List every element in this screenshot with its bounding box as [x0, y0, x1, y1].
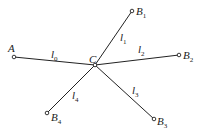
edge-label-l2-subscript: 2	[141, 50, 145, 58]
node-label-B2: B2	[183, 49, 194, 64]
node-label-C-text: C	[89, 53, 97, 65]
node-label-B4-subscript: 4	[58, 118, 62, 126]
node-A-point	[12, 55, 16, 59]
node-B3-point	[152, 117, 156, 121]
node-label-B3: B3	[157, 115, 168, 130]
edge-label-l0-subscript: 0	[54, 55, 58, 63]
edge-label-l1-subscript: 1	[123, 38, 127, 46]
edge-l4	[47, 65, 95, 113]
edge-l3	[95, 65, 154, 119]
node-label-B4: B4	[51, 111, 62, 126]
node-B4-point	[45, 111, 49, 115]
node-label-A: A	[7, 42, 15, 54]
edge-label-l2: l2	[138, 43, 145, 58]
edge-label-l4-subscript: 4	[75, 96, 79, 104]
node-label-B3-subscript: 3	[164, 122, 168, 130]
node-B2-point	[177, 53, 181, 57]
node-label-C: C	[89, 53, 97, 65]
node-B1-point	[130, 9, 134, 13]
nodes	[12, 9, 181, 121]
node-label-B1: B1	[136, 5, 147, 20]
node-label-A-text: A	[7, 42, 15, 54]
edge-label-l4: l4	[72, 89, 79, 104]
edge-l2	[95, 55, 179, 65]
edge-label-l1: l1	[120, 31, 127, 46]
star-graph-diagram: l0l1l2l3l4AB1B2B3B4C	[0, 0, 203, 136]
edge-label-l3-subscript: 3	[135, 91, 139, 99]
labels: l0l1l2l3l4AB1B2B3B4C	[7, 5, 194, 130]
edge-label-l3: l3	[132, 84, 139, 99]
node-label-B2-subscript: 2	[190, 56, 194, 64]
node-label-B1-subscript: 1	[143, 12, 147, 20]
